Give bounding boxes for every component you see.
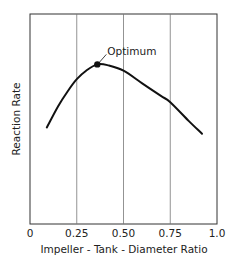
x-axis-label: Impeller - Tank - Diameter Ratio — [40, 243, 207, 255]
optimum-label: Optimum — [107, 45, 156, 57]
x-tick-label: 0 — [27, 227, 34, 239]
x-tick-label: 0.50 — [112, 227, 135, 239]
y-axis-label: Reaction Rate — [10, 82, 22, 155]
optimum-leader-line — [99, 54, 106, 62]
x-tick-label: 1.0 — [209, 227, 226, 239]
x-tick-label: 0.25 — [65, 227, 88, 239]
reaction-rate-curve — [47, 64, 202, 134]
reaction-rate-chart: Optimum 00.250.500.751.0 Impeller - Tank… — [0, 0, 235, 264]
x-tick-labels: 00.250.500.751.0 — [27, 227, 226, 239]
x-tick-label: 0.75 — [159, 227, 182, 239]
